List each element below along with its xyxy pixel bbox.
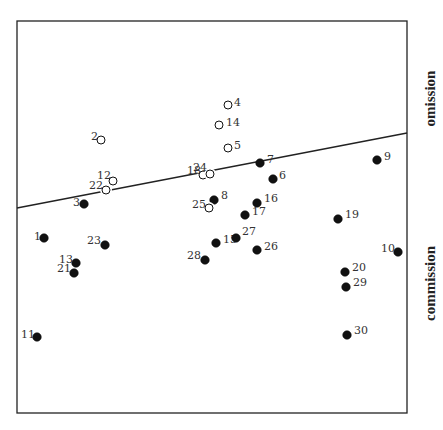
commission-label: commission: [422, 239, 439, 329]
point-label-14: 14: [226, 116, 240, 129]
omission-label: omission: [422, 64, 439, 134]
data-point-20: [341, 268, 350, 277]
data-point-27: [232, 234, 241, 243]
data-point-26: [253, 246, 262, 255]
data-point-29: [342, 283, 351, 292]
scatter-plot: 1234567891011121314151617181920212223242…: [0, 0, 443, 430]
point-label-29: 29: [353, 276, 367, 289]
data-point-4: [224, 101, 232, 109]
data-point-6: [269, 175, 278, 184]
data-point-5: [224, 144, 232, 152]
point-label-26: 26: [264, 240, 278, 253]
data-point-25: [205, 204, 213, 212]
point-label-16: 16: [264, 192, 278, 205]
data-point-23: [101, 241, 110, 250]
point-label-25: 25: [192, 198, 206, 211]
data-point-17: [241, 211, 250, 220]
data-point-24: [206, 170, 214, 178]
points-layer: 1234567891011121314151617181920212223242…: [21, 96, 402, 341]
point-label-5: 5: [234, 139, 241, 152]
data-point-2: [97, 136, 105, 144]
data-point-28: [201, 256, 210, 265]
data-point-3: [80, 200, 89, 209]
data-point-19: [334, 215, 343, 224]
data-point-7: [256, 159, 265, 168]
point-label-11: 11: [21, 328, 35, 341]
point-label-22: 22: [89, 179, 103, 192]
data-point-9: [373, 156, 382, 165]
point-label-10: 10: [381, 242, 395, 255]
data-point-14: [215, 121, 223, 129]
point-label-19: 19: [345, 208, 359, 221]
point-label-2: 2: [91, 130, 98, 143]
point-label-4: 4: [234, 96, 241, 109]
point-label-20: 20: [352, 261, 366, 274]
point-label-28: 28: [187, 249, 201, 262]
point-label-7: 7: [267, 153, 274, 166]
point-label-6: 6: [279, 169, 286, 182]
point-label-17: 17: [252, 205, 266, 218]
point-label-21: 21: [57, 262, 71, 275]
point-label-27: 27: [242, 225, 256, 238]
point-label-23: 23: [87, 234, 101, 247]
data-point-30: [343, 331, 352, 340]
point-label-3: 3: [73, 196, 80, 209]
point-label-8: 8: [221, 189, 228, 202]
data-point-22: [102, 186, 110, 194]
point-label-24: 24: [193, 161, 207, 174]
point-label-9: 9: [384, 150, 391, 163]
point-label-1: 1: [34, 230, 41, 243]
point-label-30: 30: [354, 324, 368, 337]
data-point-15: [212, 239, 221, 248]
